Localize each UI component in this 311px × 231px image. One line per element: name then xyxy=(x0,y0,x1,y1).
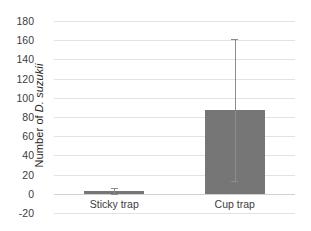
error-bar-cap xyxy=(231,39,238,40)
gridline xyxy=(54,59,295,60)
y-axis-tick-label: 100 xyxy=(0,92,34,104)
gridline xyxy=(54,21,295,22)
y-axis-tick-label: 60 xyxy=(0,130,34,142)
y-axis-tick-label: 120 xyxy=(0,73,34,85)
y-axis-tick-label: 140 xyxy=(0,53,34,65)
error-bar-cap xyxy=(111,188,118,189)
y-axis-tick-label: 0 xyxy=(0,188,34,200)
gridline xyxy=(54,98,295,99)
y-axis-tick-label: -20 xyxy=(0,207,34,219)
y-axis-tick-label: 20 xyxy=(0,169,34,181)
gridline xyxy=(54,79,295,80)
error-bar-cup-trap xyxy=(235,39,236,181)
zero-gridline xyxy=(54,194,295,195)
y-axis-tick-label: 80 xyxy=(0,111,34,123)
y-axis-tick-label: 180 xyxy=(0,15,34,27)
x-axis-label-sticky-trap: Sticky trap xyxy=(90,198,139,210)
y-axis-title-prefix: Number of xyxy=(33,115,45,167)
x-axis-label-cup-trap: Cup trap xyxy=(215,198,255,210)
x-axis-line xyxy=(54,213,295,214)
error-bar-cap xyxy=(111,194,118,195)
gridline xyxy=(54,40,295,41)
y-axis-tick-label: 40 xyxy=(0,149,34,161)
y-axis-title-species: D. suzukii xyxy=(33,64,45,116)
y-axis-tick-label: 160 xyxy=(0,34,34,46)
error-bar-cap xyxy=(231,181,238,182)
plot-area: 180160140120100806040200-20 xyxy=(54,21,295,213)
chart-container: Number ofD. suzukii 18016014012010080604… xyxy=(0,0,311,231)
